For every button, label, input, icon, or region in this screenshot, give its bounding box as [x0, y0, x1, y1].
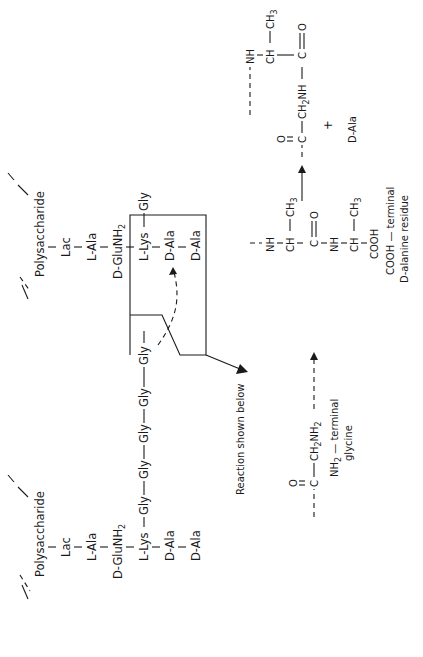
ch-group: CH [285, 237, 296, 252]
carbonyl-c: C [297, 136, 308, 143]
right-peptidoglycan-strand: Polysaccharide Lac L-Ala D-GluNH2 L-Lys … [8, 173, 203, 299]
ch-group: CH [349, 237, 360, 252]
carbonyl-o: O [309, 211, 320, 219]
nh-group: NH [265, 237, 276, 252]
arrowhead-icon [310, 352, 318, 360]
polysaccharide-dash [20, 575, 30, 591]
alanine-label-line1: COOH — terminal [385, 187, 396, 275]
left-peptidoglycan-strand: Polysaccharide Lac L-Ala D-GluNH2 L-Lys … [8, 331, 203, 599]
lac-label: Lac [59, 237, 73, 257]
l-ala-label: L-Ala [85, 533, 99, 561]
carbonyl-c: C [297, 52, 308, 59]
carbonyl-o: O [297, 23, 308, 31]
ch2nh2-group: CH2NH2 [309, 421, 323, 461]
arrowhead-icon [169, 267, 177, 275]
peptidoglycan-crosslink-diagram: Polysaccharide Lac L-Ala D-GluNH2 L-Lys … [0, 0, 423, 657]
polysaccharide-dash [18, 185, 28, 195]
gly-label: Gly [137, 496, 151, 515]
terminal-glycine: C O CH2NH2 NH2 — terminal glycine [288, 217, 354, 517]
carbonyl-c: C [309, 480, 320, 487]
l-lys-label: L-Lys [137, 532, 151, 561]
callout-label: Reaction shown below [235, 383, 246, 495]
polysaccharide-dash [8, 173, 14, 180]
polysaccharide-dash [22, 585, 28, 599]
glycine-label-line2: glycine [343, 425, 354, 461]
terminal-d-alanine: NH CH CH3 C O NH CH CH3 COOH COOH — term… [250, 187, 410, 283]
l-lys-label: L-Lys [137, 232, 151, 261]
ch3-group: CH3 [285, 197, 299, 217]
carbonyl-c: C [309, 240, 320, 247]
polysaccharide-dash [20, 277, 30, 291]
released-d-ala: D-Ala [347, 116, 358, 143]
polysaccharide-label: Polysaccharide [33, 491, 47, 577]
arrowhead-icon [236, 364, 248, 374]
polysaccharide-dash [8, 475, 14, 482]
nh-group: NH [329, 237, 340, 252]
polysaccharide-label: Polysaccharide [33, 191, 47, 277]
gly-label: Gly [137, 388, 151, 407]
callout-arrow-line [206, 355, 240, 369]
ch3-group: CH3 [349, 197, 363, 217]
cooh-group: COOH [369, 229, 380, 259]
plus-sign: + [321, 120, 335, 130]
crosslinked-product: C O CH2NH NH CH CH3 C O [245, 9, 311, 157]
carbonyl-o: O [288, 479, 299, 487]
l-ala-label: L-Ala [85, 233, 99, 261]
ch3-group: CH3 [265, 9, 279, 29]
ch-group: CH [265, 49, 276, 64]
gly-label: Gly [137, 346, 151, 365]
arrowhead-icon [298, 165, 306, 173]
gly-label: Gly [137, 424, 151, 443]
lac-label: Lac [59, 537, 73, 557]
d-ala-label: D-Ala [189, 530, 203, 561]
polysaccharide-dash [18, 487, 28, 497]
alanine-label-line2: D-alanine residue [399, 195, 410, 283]
d-glunh2-label: D-GluNH2 [111, 524, 127, 579]
d-glunh2-label: D-GluNH2 [111, 224, 127, 279]
carbonyl-o: O [276, 135, 287, 143]
gly-label: Gly [137, 192, 151, 211]
d-ala-label: D-Ala [189, 230, 203, 261]
glycine-label-line1: NH2 — terminal [329, 399, 343, 477]
nh-group: NH [245, 49, 256, 64]
gly-label: Gly [137, 460, 151, 479]
d-ala-label: D-Ala [163, 230, 177, 261]
ch2nh-group: CH2NH [297, 84, 311, 119]
d-ala-label: D-Ala [163, 530, 177, 561]
transpeptidation-dashed-arrow [158, 272, 177, 345]
